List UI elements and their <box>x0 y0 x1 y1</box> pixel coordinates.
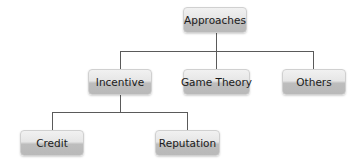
connector-incentive-down <box>120 95 121 112</box>
node-credit: Credit <box>20 130 84 156</box>
connector-level1-bus <box>120 51 314 52</box>
connector-root-down <box>216 33 217 52</box>
tree-diagram: Approaches Incentive Game Theory Others … <box>0 0 363 165</box>
connector-to-game-theory <box>216 51 217 69</box>
connector-to-credit <box>52 112 53 130</box>
connector-to-incentive <box>120 51 121 69</box>
node-game-theory: Game Theory <box>183 69 250 95</box>
node-incentive: Incentive <box>88 69 152 95</box>
connector-to-others <box>313 51 314 69</box>
connector-level2-bus <box>52 112 188 113</box>
node-reputation: Reputation <box>155 130 220 156</box>
node-others: Others <box>282 69 346 95</box>
connector-to-reputation <box>187 112 188 130</box>
node-approaches: Approaches <box>183 7 247 33</box>
